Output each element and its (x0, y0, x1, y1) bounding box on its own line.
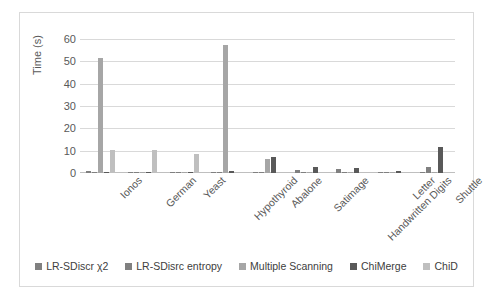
y-tick-label-60: 60 (50, 33, 76, 45)
legend-label: LR-SDiscr χ2 (46, 260, 108, 272)
bar[interactable] (342, 172, 347, 173)
chart-container: Time (s) 6050403020100 IonosGermanYeastH… (19, 12, 474, 287)
bar[interactable] (432, 172, 437, 173)
legend-item[interactable]: ChiD (423, 260, 457, 272)
bar[interactable] (277, 172, 282, 173)
bar[interactable] (390, 172, 395, 173)
bar[interactable] (253, 172, 258, 173)
bar[interactable] (265, 159, 270, 173)
bar-group (163, 39, 205, 173)
bar[interactable] (420, 172, 425, 173)
legend-swatch-icon (350, 263, 357, 270)
bar[interactable] (170, 172, 175, 173)
legend-label: Multiple Scanning (250, 260, 333, 272)
bar[interactable] (319, 172, 324, 173)
y-tick-label-10: 10 (50, 145, 76, 157)
bar[interactable] (313, 167, 318, 173)
legend-item[interactable]: LR-SDisrc entropy (125, 260, 222, 272)
x-axis-label: Yeast (201, 174, 228, 201)
bar[interactable] (396, 171, 401, 173)
y-axis-tick-labels: 6050403020100 (46, 39, 76, 173)
bar[interactable] (223, 45, 228, 173)
bar[interactable] (176, 172, 181, 173)
legend-label: ChiD (434, 260, 457, 272)
legend-swatch-icon (125, 263, 132, 270)
y-tick-label-40: 40 (50, 78, 76, 90)
bar-group (372, 39, 414, 173)
bar-group (288, 39, 330, 173)
bar[interactable] (146, 172, 151, 173)
y-tick-label-30: 30 (50, 100, 76, 112)
bar-group (330, 39, 372, 173)
bar[interactable] (271, 157, 276, 173)
x-axis-label: German (163, 174, 198, 209)
bar[interactable] (438, 147, 443, 173)
bar[interactable] (140, 172, 145, 173)
chart-legend: LR-SDiscr χ2LR-SDisrc entropyMultiple Sc… (20, 260, 473, 272)
x-axis-category-labels: IonosGermanYeastHypothyroidAbaloneSatima… (80, 174, 455, 249)
bar-group (247, 39, 289, 173)
bar-group (80, 39, 122, 173)
bar[interactable] (128, 172, 133, 173)
bar[interactable] (426, 167, 431, 173)
legend-swatch-icon (239, 263, 246, 270)
x-axis-label: Satimage (331, 174, 371, 214)
bar[interactable] (235, 172, 240, 173)
bar[interactable] (104, 172, 109, 173)
bar[interactable] (384, 172, 389, 173)
bar[interactable] (402, 172, 407, 173)
y-tick-label-0: 0 (50, 167, 76, 179)
bar[interactable] (348, 172, 353, 173)
bar[interactable] (98, 58, 103, 173)
plot-area (80, 39, 455, 173)
x-axis-label: Shuttle (453, 174, 485, 206)
bar[interactable] (182, 172, 187, 173)
y-axis-title: Time (s) (31, 35, 43, 75)
bar[interactable] (307, 172, 312, 173)
bar[interactable] (152, 150, 157, 173)
bar[interactable] (188, 172, 193, 173)
bar[interactable] (92, 172, 97, 173)
bar[interactable] (86, 171, 91, 173)
bar[interactable] (301, 172, 306, 173)
bar[interactable] (360, 172, 365, 173)
legend-item[interactable]: LR-SDiscr χ2 (35, 260, 108, 272)
legend-item[interactable]: Multiple Scanning (239, 260, 333, 272)
x-axis-label: Ionos (118, 174, 145, 201)
legend-swatch-icon (35, 263, 42, 270)
bar[interactable] (194, 154, 199, 173)
bar[interactable] (211, 172, 216, 173)
legend-swatch-icon (423, 263, 430, 270)
bar[interactable] (354, 168, 359, 173)
legend-label: LR-SDisrc entropy (136, 260, 222, 272)
legend-item[interactable]: ChiMerge (350, 260, 407, 272)
bar[interactable] (378, 172, 383, 173)
bar-group (205, 39, 247, 173)
bar[interactable] (295, 170, 300, 173)
bar[interactable] (259, 172, 264, 173)
legend-label: ChiMerge (361, 260, 407, 272)
bar[interactable] (110, 150, 115, 173)
bar[interactable] (229, 171, 234, 173)
y-tick-label-50: 50 (50, 55, 76, 67)
bar[interactable] (134, 172, 139, 173)
bar[interactable] (336, 169, 341, 173)
y-tick-label-20: 20 (50, 122, 76, 134)
plot-area-wrapper (80, 39, 455, 173)
bar-group (122, 39, 164, 173)
bar-group (413, 39, 455, 173)
